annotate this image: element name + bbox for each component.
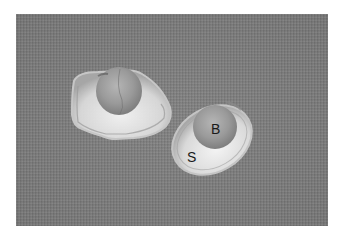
photograph: B S [16, 14, 328, 226]
right-specimen [160, 91, 265, 188]
shell-label: S [187, 150, 196, 164]
left-specimen [72, 67, 171, 139]
specimens-illustration [16, 14, 328, 226]
bead-label: B [211, 122, 220, 136]
